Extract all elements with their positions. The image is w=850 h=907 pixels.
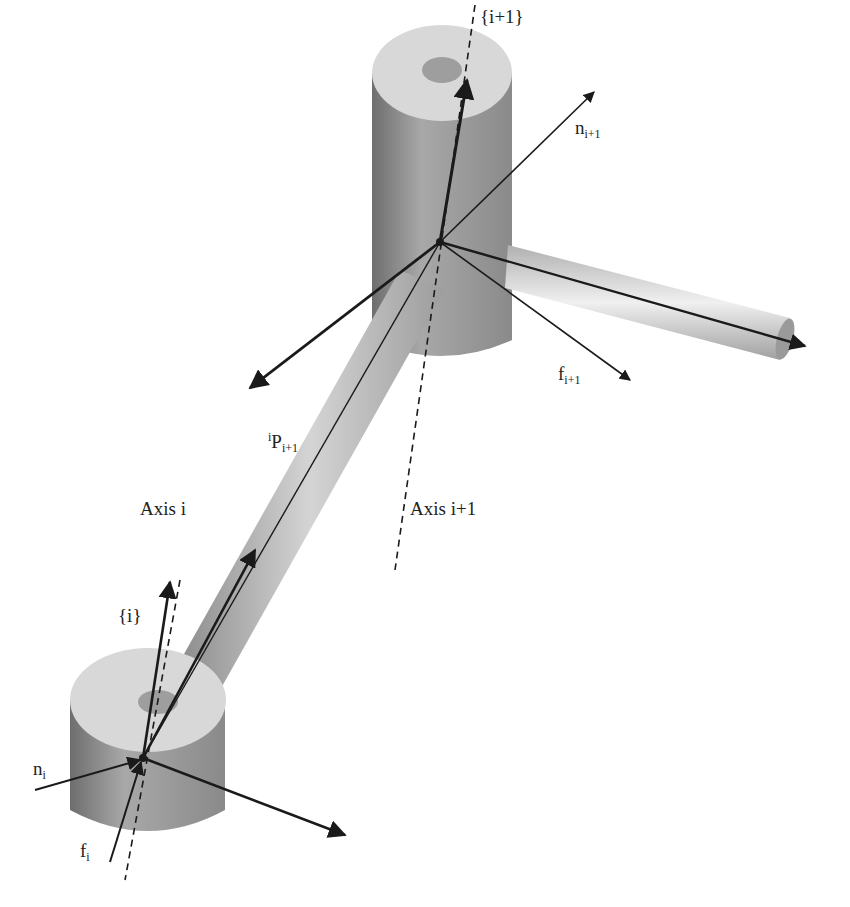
label-axis-i-plus-1: Axis i+1 [410, 498, 476, 520]
robot-link-diagram [0, 0, 850, 907]
label-force-next: fi+1 [558, 363, 580, 388]
label-position-vector: iPi+1 [268, 430, 298, 456]
label-torque-next: ni+1 [575, 117, 601, 142]
position-vector-line [143, 242, 440, 758]
label-frame-i: {i} [118, 605, 142, 627]
label-frame-i-plus-1: {i+1} [480, 6, 524, 28]
joint-cylinder-lower [70, 648, 226, 831]
label-force-i: fi [80, 840, 90, 865]
origin-point-lower [139, 754, 147, 762]
label-axis-i: Axis i [140, 498, 186, 520]
label-torque-i: ni [33, 758, 46, 783]
link-rod [175, 270, 445, 690]
